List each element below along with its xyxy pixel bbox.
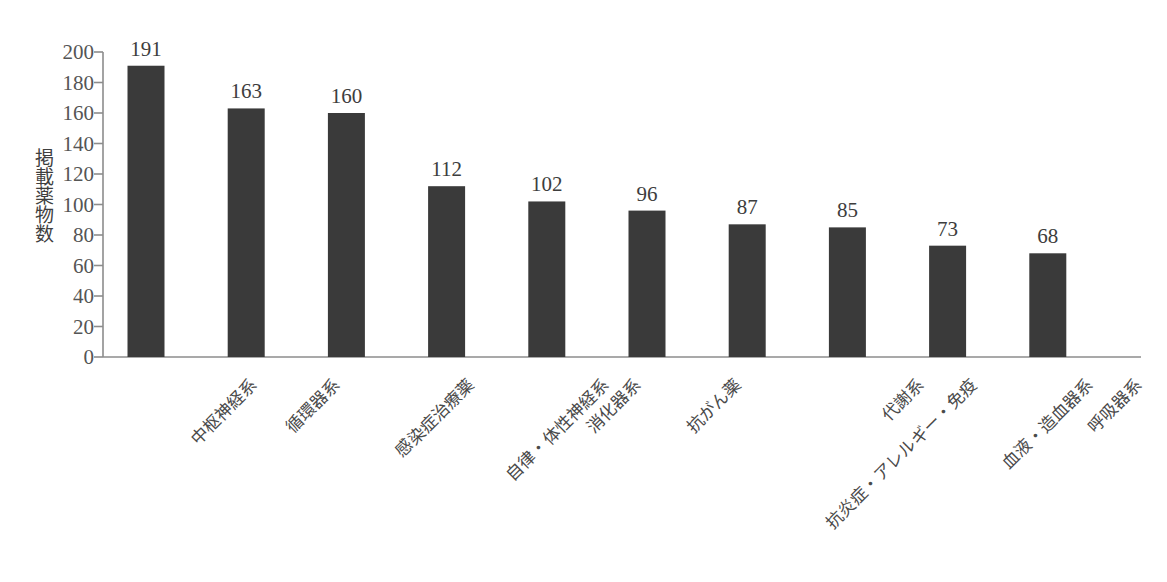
bar [328,113,365,357]
bar-value-label: 191 [130,39,162,60]
bar-value-label: 112 [431,159,462,180]
y-axis-ticks [94,52,103,357]
bar [1029,253,1066,357]
bar [729,224,766,357]
bar [428,186,465,357]
bar-value-label: 163 [230,81,262,102]
bar [929,246,966,357]
bars [128,66,1067,357]
bar [228,108,265,357]
bar-value-label: 96 [637,184,658,205]
bar [629,211,666,357]
bar [528,201,565,357]
bar-value-label: 160 [331,86,363,107]
bar-value-label: 102 [531,174,563,195]
bar-chart: 掲載薬物数 200180160140120100806040200 191163… [0,0,1167,582]
bar-value-label: 68 [1037,226,1058,247]
bar [128,66,165,357]
bar-value-label: 85 [837,200,858,221]
bar-value-label: 87 [737,197,758,218]
plot-area [0,0,1167,582]
bar [829,227,866,357]
bar-value-label: 73 [937,219,958,240]
